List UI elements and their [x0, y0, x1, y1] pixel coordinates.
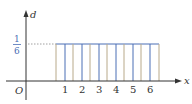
x-tick-2: 2: [79, 84, 85, 95]
origin-label: O: [15, 85, 23, 96]
y-axis-arrow-icon: [24, 10, 29, 17]
chart: d x O 1 6 1 2 3 4 5 6: [0, 0, 192, 104]
x-tick-1: 1: [62, 84, 68, 95]
x-tick-3: 3: [96, 84, 102, 95]
x-tick-6: 6: [147, 84, 153, 95]
x-axis-arrow-icon: [175, 79, 182, 84]
x-tick-5: 5: [130, 84, 136, 95]
y-axis-label: d: [30, 9, 36, 20]
x-tick-labels: 1 2 3 4 5 6: [62, 84, 153, 95]
x-tick-4: 4: [113, 84, 119, 95]
frac-denominator: 6: [14, 46, 20, 56]
bar-edges: [56, 44, 159, 81]
x-axis-label: x: [184, 75, 190, 86]
frac-numerator: 1: [14, 34, 20, 44]
